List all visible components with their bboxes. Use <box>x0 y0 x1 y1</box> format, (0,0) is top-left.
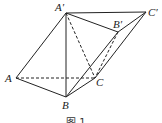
edge-b-c <box>66 78 95 97</box>
label-a-prime: A′ <box>54 1 65 13</box>
label-c: C <box>96 76 104 88</box>
edge-b1-c1 <box>118 12 146 32</box>
edge-a1-a <box>16 13 66 78</box>
label-c-prime: C′ <box>148 6 158 18</box>
edge-a1-b1 <box>66 13 118 32</box>
label-b: B <box>62 99 69 111</box>
edge-a1-c-dashed <box>66 13 95 78</box>
prism-diagram: A′ C′ B′ A C B 图 1 <box>0 0 162 123</box>
label-b-prime: B′ <box>113 18 123 30</box>
edge-b-b1 <box>66 32 118 97</box>
label-a: A <box>4 72 12 84</box>
figure-caption: 图 1 <box>66 117 86 123</box>
edge-a1-c1 <box>66 12 146 13</box>
edge-b1-c-dashed <box>95 32 118 78</box>
edge-a-b <box>16 78 66 97</box>
